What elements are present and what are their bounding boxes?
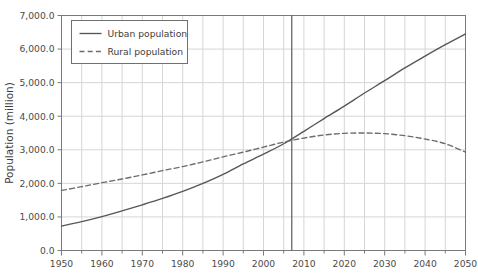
- y-axis-tick-label: 3,000.0: [19, 144, 54, 155]
- y-axis-tick-label: 0.0: [40, 245, 55, 256]
- y-axis-tick-label: 6,000.0: [19, 43, 54, 54]
- y-axis-tick-label: 1,000.0: [19, 211, 54, 222]
- y-axis-tick-label: 4,000.0: [19, 111, 54, 122]
- x-axis-tick-label: 1970: [131, 258, 155, 269]
- legend-label-rural: Rural population: [108, 46, 184, 57]
- x-axis-tick-label: 2010: [292, 258, 316, 269]
- y-axis-title: Population (million): [3, 82, 15, 184]
- x-axis-tick-label: 1980: [171, 258, 195, 269]
- y-axis-tick-label: 7,000.0: [19, 10, 54, 21]
- x-axis-tick-label: 2050: [454, 258, 478, 269]
- x-axis-tick-label: 1990: [211, 258, 235, 269]
- y-axis-tick-label: 2,000.0: [19, 178, 54, 189]
- x-axis-tick-label: 2000: [252, 258, 276, 269]
- x-axis-tick-label: 2040: [413, 258, 437, 269]
- population-line-chart: 0.01,000.02,000.03,000.04,000.05,000.06,…: [0, 0, 478, 280]
- x-axis-tick-label: 2030: [373, 258, 397, 269]
- x-axis-tick-label: 2020: [333, 258, 357, 269]
- chart-canvas: 0.01,000.02,000.03,000.04,000.05,000.06,…: [0, 0, 478, 280]
- y-axis-tick-label: 5,000.0: [19, 77, 54, 88]
- x-axis-tick-label: 1960: [90, 258, 114, 269]
- x-axis-tick-label: 1950: [50, 258, 74, 269]
- legend-label-urban: Urban population: [108, 28, 188, 39]
